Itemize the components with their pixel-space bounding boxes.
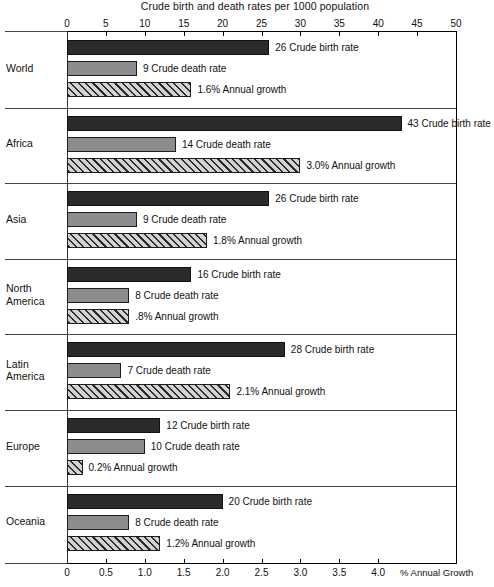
bar-label-birth-north-america: 16 Crude birth rate: [197, 269, 280, 281]
bar-death-africa: [67, 137, 176, 152]
top-axis-tick: [184, 32, 185, 36]
region-label-line: Europe: [6, 440, 60, 453]
bar-growth-latin-america: [67, 384, 230, 399]
top-axis-tick-label: 10: [130, 18, 160, 29]
bar-label-death-north-america: 8 Crude death rate: [135, 290, 218, 302]
bar-death-north-america: [67, 288, 129, 303]
top-axis-tick: [145, 32, 146, 36]
top-axis-tick: [378, 32, 379, 36]
region-separator: [5, 183, 456, 184]
bar-label-growth-oceania: 1.2% Annual growth: [166, 538, 255, 550]
bottom-axis-tick: [106, 559, 107, 563]
bar-label-death-oceania: 8 Crude death rate: [135, 517, 218, 529]
bar-death-oceania: [67, 515, 129, 530]
bar-label-birth-europe: 12 Crude birth rate: [166, 420, 249, 432]
chart-title: Crude birth and death rates per 1000 pop…: [0, 0, 494, 13]
bar-birth-latin-america: [67, 342, 285, 357]
bar-growth-world: [67, 82, 191, 97]
bottom-axis-tick-label: 1.5: [169, 567, 199, 578]
top-axis-tick-label: 15: [169, 18, 199, 29]
label-column-rule: [5, 563, 67, 564]
bar-label-birth-asia: 26 Crude birth rate: [275, 193, 358, 205]
bar-growth-north-america: [67, 309, 129, 324]
bar-label-death-asia: 9 Crude death rate: [143, 214, 226, 226]
bottom-axis-label: % Annual Growth: [400, 567, 473, 578]
bar-label-birth-africa: 43 Crude birth rate: [408, 118, 491, 130]
bar-label-death-europe: 10 Crude death rate: [151, 441, 240, 453]
top-axis-tick-label: 45: [402, 18, 432, 29]
bottom-axis-tick: [262, 559, 263, 563]
region-label-line: Africa: [6, 137, 60, 150]
bar-death-world: [67, 61, 137, 76]
bar-label-growth-world: 1.6% Annual growth: [197, 84, 286, 96]
region-label-world: World: [6, 62, 60, 75]
bar-birth-asia: [67, 191, 269, 206]
top-axis-tick: [339, 32, 340, 36]
bottom-axis-tick: [378, 559, 379, 563]
bar-birth-world: [67, 40, 269, 55]
bottom-axis-tick: [339, 559, 340, 563]
bar-growth-oceania: [67, 536, 160, 551]
top-axis-tick-label: 0: [52, 18, 82, 29]
region-label-latin-america: LatinAmerica: [6, 358, 60, 383]
bar-label-death-world: 9 Crude death rate: [143, 63, 226, 75]
region-separator: [5, 108, 456, 109]
bar-label-growth-africa: 3.0% Annual growth: [306, 160, 395, 172]
bottom-axis-tick: [223, 559, 224, 563]
bar-label-birth-oceania: 20 Crude birth rate: [229, 496, 312, 508]
bar-label-death-latin-america: 7 Crude death rate: [127, 365, 210, 377]
bar-birth-europe: [67, 418, 160, 433]
bar-death-asia: [67, 212, 137, 227]
top-axis-tick: [300, 32, 301, 36]
chart-title-text: Crude birth and death rates per 1000 pop…: [141, 0, 369, 12]
region-label-africa: Africa: [6, 137, 60, 150]
bar-death-latin-america: [67, 363, 121, 378]
top-axis-tick-label: 20: [208, 18, 238, 29]
bar-birth-north-america: [67, 267, 191, 282]
region-separator: [5, 334, 456, 335]
top-axis-tick-label: 5: [91, 18, 121, 29]
bottom-axis-tick-label: 0: [52, 567, 82, 578]
region-separator: [5, 410, 456, 411]
top-axis-tick-label: 50: [441, 18, 471, 29]
label-column-rule: [5, 31, 67, 32]
crude-birth-death-rate-chart: Crude birth and death rates per 1000 pop…: [0, 0, 494, 587]
bottom-axis-tick-label: 1.0: [130, 567, 160, 578]
top-axis-tick: [262, 32, 263, 36]
region-separator: [5, 486, 456, 487]
top-axis-tick-label: 35: [324, 18, 354, 29]
bottom-axis-tick-label: 3.5: [324, 567, 354, 578]
region-label-line: Latin: [6, 358, 60, 371]
top-axis-tick: [106, 32, 107, 36]
region-label-north-america: NorthAmerica: [6, 282, 60, 307]
bar-birth-oceania: [67, 494, 223, 509]
bar-growth-africa: [67, 158, 300, 173]
bar-growth-europe: [67, 460, 83, 475]
top-axis-tick: [417, 32, 418, 36]
bottom-axis-tick-label: 0.5: [91, 567, 121, 578]
region-label-line: World: [6, 62, 60, 75]
bar-birth-africa: [67, 116, 402, 131]
bottom-axis-tick: [184, 559, 185, 563]
top-axis-tick-label: 25: [247, 18, 277, 29]
bar-death-europe: [67, 439, 145, 454]
bar-label-growth-latin-america: 2.1% Annual growth: [236, 386, 325, 398]
top-axis-tick: [223, 32, 224, 36]
bar-growth-asia: [67, 233, 207, 248]
region-label-asia: Asia: [6, 213, 60, 226]
bar-label-death-africa: 14 Crude death rate: [182, 139, 271, 151]
bottom-axis-tick-label: 2.0: [208, 567, 238, 578]
bottom-axis-tick: [145, 559, 146, 563]
region-label-line: America: [6, 370, 60, 383]
bottom-axis-tick: [300, 559, 301, 563]
bottom-axis-tick-label: 2.5: [247, 567, 277, 578]
bar-label-birth-world: 26 Crude birth rate: [275, 42, 358, 54]
region-label-oceania: Oceania: [6, 515, 60, 528]
region-label-line: Oceania: [6, 515, 60, 528]
plot-right-border: [456, 31, 457, 563]
region-label-europe: Europe: [6, 440, 60, 453]
bar-label-birth-latin-america: 28 Crude birth rate: [291, 344, 374, 356]
bar-label-growth-asia: 1.8% Annual growth: [213, 235, 302, 247]
region-separator: [5, 259, 456, 260]
bottom-axis-line: [67, 563, 457, 564]
